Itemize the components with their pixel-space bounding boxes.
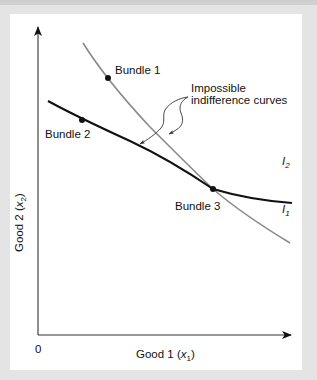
- y-axis-label: Good 2 (x2): [13, 193, 28, 252]
- indifference-curve-i2: [48, 101, 292, 203]
- annotation-line-1: Impossible: [191, 82, 246, 94]
- bundle-3-point: [210, 186, 216, 192]
- origin-label: 0: [35, 343, 41, 355]
- bundle-2-point: [79, 117, 85, 123]
- x-axis-label: Good 1 (x1): [136, 348, 195, 363]
- curve-label-i2: I2: [282, 155, 290, 170]
- bundle-1-label: Bundle 1: [115, 64, 160, 76]
- bundle-1-point: [105, 75, 111, 81]
- bundle-3-label: Bundle 3: [175, 200, 220, 212]
- bundle-2-label: Bundle 2: [45, 128, 90, 140]
- curve-label-i1: I1: [282, 203, 290, 218]
- indifference-curve-diagram: 0 Good 1 (x1) Good 2 (x2) I2 I1 Bundle 1…: [0, 0, 317, 380]
- annotation-callout: [140, 97, 188, 144]
- figure-stage: 0 Good 1 (x1) Good 2 (x2) I2 I1 Bundle 1…: [0, 0, 317, 380]
- annotation-line-2: indifference curves: [191, 94, 288, 106]
- axes: [38, 27, 291, 335]
